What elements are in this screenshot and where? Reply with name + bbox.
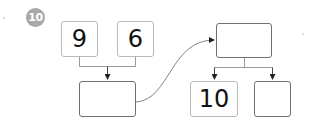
part-answer-box[interactable] bbox=[254, 81, 291, 117]
whole-answer-box[interactable] bbox=[216, 23, 272, 58]
number-bond-diagram: 10 9 6 10 bbox=[0, 0, 314, 125]
part-box-ten: 10 bbox=[190, 81, 238, 117]
left-merge-connector bbox=[80, 57, 136, 79]
addend-2-value: 6 bbox=[128, 25, 143, 53]
part-ten-value: 10 bbox=[199, 85, 230, 113]
addend-box-2: 6 bbox=[117, 21, 154, 57]
addend-1-value: 9 bbox=[72, 25, 87, 53]
sum-answer-box[interactable] bbox=[79, 81, 136, 117]
addend-box-1: 9 bbox=[61, 21, 98, 57]
right-split-connector bbox=[215, 58, 273, 79]
